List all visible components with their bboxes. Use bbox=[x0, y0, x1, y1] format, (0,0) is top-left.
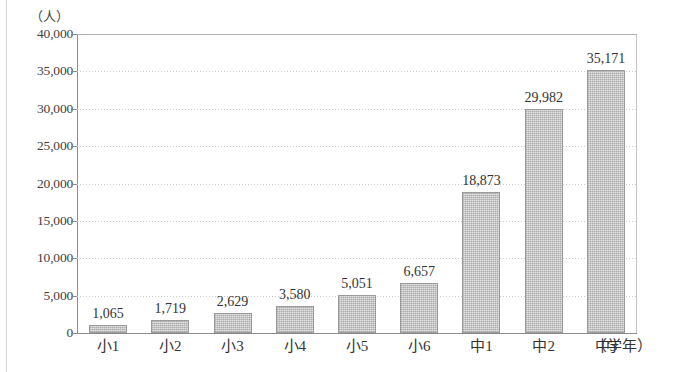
bar-value-label: 3,580 bbox=[279, 288, 311, 302]
y-axis-tick-label: 10,000 bbox=[37, 251, 73, 265]
y-axis-tick-labels: 05,00010,00015,00020,00025,00030,00035,0… bbox=[0, 0, 73, 372]
bar[interactable] bbox=[151, 320, 189, 333]
y-axis-tick-label: 5,000 bbox=[44, 289, 73, 303]
y-axis-tick bbox=[71, 109, 77, 110]
y-axis-tick bbox=[71, 146, 77, 147]
bar-group: 6,657 bbox=[388, 34, 450, 333]
y-axis-tick-label: 35,000 bbox=[37, 64, 73, 78]
y-axis-tick-label: 20,000 bbox=[37, 177, 73, 191]
bar-value-label: 1,719 bbox=[155, 302, 187, 316]
y-axis-tick bbox=[71, 34, 77, 35]
y-axis-tick-label: 15,000 bbox=[37, 214, 73, 228]
bar-value-label: 6,657 bbox=[403, 265, 435, 279]
x-axis-tick-label: 中2 bbox=[513, 338, 575, 354]
bar[interactable] bbox=[276, 306, 314, 333]
y-axis-tick bbox=[71, 71, 77, 72]
bar[interactable] bbox=[462, 192, 500, 333]
bar-value-label: 1,065 bbox=[92, 307, 124, 321]
y-axis-tick bbox=[71, 221, 77, 222]
bar[interactable] bbox=[525, 109, 563, 333]
x-axis-tick-label: 小5 bbox=[326, 338, 388, 354]
x-axis-line bbox=[77, 333, 637, 334]
y-axis-tick bbox=[71, 184, 77, 185]
x-axis-tick-label: 小6 bbox=[388, 338, 450, 354]
x-axis-tick-label: 小3 bbox=[201, 338, 263, 354]
bar-chart: （人） 05,00010,00015,00020,00025,00030,000… bbox=[0, 0, 673, 372]
plot-area: 1,0651,7192,6293,5805,0516,65718,87329,9… bbox=[77, 34, 637, 333]
bar-value-label: 18,873 bbox=[462, 174, 501, 188]
bar[interactable] bbox=[587, 70, 625, 333]
bar-group: 1,065 bbox=[77, 34, 139, 333]
y-axis-tick-label: 30,000 bbox=[37, 102, 73, 116]
bar-group: 29,982 bbox=[513, 34, 575, 333]
y-axis-tick bbox=[71, 296, 77, 297]
y-axis-tick bbox=[71, 333, 77, 334]
bar-group: 1,719 bbox=[139, 34, 201, 333]
bar[interactable] bbox=[338, 295, 376, 333]
y-axis-tick-label: 40,000 bbox=[37, 27, 73, 41]
bar-group: 2,629 bbox=[201, 34, 263, 333]
bar[interactable] bbox=[89, 325, 127, 333]
bar-value-label: 5,051 bbox=[341, 277, 373, 291]
y-axis-tick-label: 25,000 bbox=[37, 139, 73, 153]
x-axis-tick-label: 小1 bbox=[77, 338, 139, 354]
bar-group: 3,580 bbox=[264, 34, 326, 333]
x-axis-tick-label: 小2 bbox=[139, 338, 201, 354]
bar-value-label: 2,629 bbox=[217, 295, 249, 309]
bar-group: 35,171 bbox=[575, 34, 637, 333]
x-axis-tick-label: 中1 bbox=[450, 338, 512, 354]
x-axis-tick-label: 小4 bbox=[264, 338, 326, 354]
bar-value-label: 29,982 bbox=[524, 91, 563, 105]
x-axis-tick-label: 中3 bbox=[575, 338, 637, 354]
bar[interactable] bbox=[214, 313, 252, 333]
bar-group: 5,051 bbox=[326, 34, 388, 333]
bar-value-label: 35,171 bbox=[587, 52, 626, 66]
bar[interactable] bbox=[400, 283, 438, 333]
bar-group: 18,873 bbox=[450, 34, 512, 333]
y-axis-tick bbox=[71, 258, 77, 259]
